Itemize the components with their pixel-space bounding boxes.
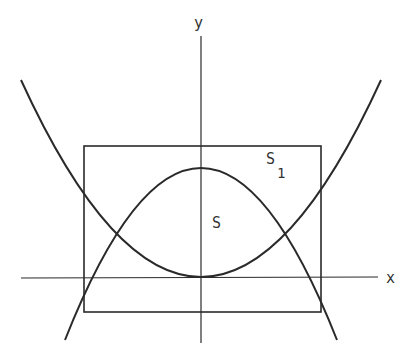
diagram-canvas: y x S S 1 bbox=[0, 0, 415, 357]
region-s1-label: S bbox=[266, 150, 275, 168]
y-axis-label: y bbox=[194, 14, 203, 32]
region-s-label: S bbox=[212, 214, 221, 232]
region-s1-subscript: 1 bbox=[277, 165, 285, 181]
x-axis-label: x bbox=[386, 269, 395, 287]
